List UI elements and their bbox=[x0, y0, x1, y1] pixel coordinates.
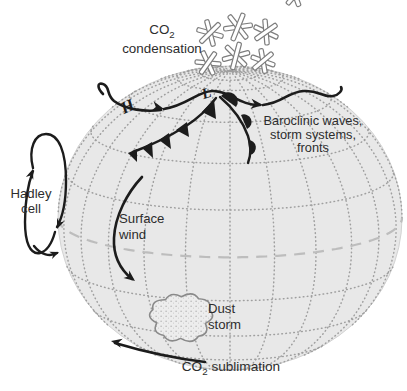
dust-cloud-texture bbox=[150, 294, 213, 342]
diagram-canvas bbox=[0, 0, 407, 391]
snowflake-icon bbox=[249, 15, 283, 48]
co2-condensation-label: CO2 condensation bbox=[92, 23, 232, 57]
arrowhead bbox=[111, 339, 123, 348]
dust-storm-cloud bbox=[150, 294, 213, 342]
mars-circulation-diagram: CO2 condensation H L Baroclinic waves, s… bbox=[0, 0, 407, 391]
dust-storm-label: Dust storm bbox=[208, 301, 241, 332]
baroclinic-label: Baroclinic waves, storm systems, fronts bbox=[243, 114, 383, 155]
co2-sublimation-label: CO2 sublimation bbox=[151, 359, 311, 379]
snowflake-icon bbox=[281, 0, 309, 8]
hadley-cell-label: Hadley cell bbox=[1, 186, 61, 216]
surface-wind-label: Surface wind bbox=[119, 211, 164, 242]
